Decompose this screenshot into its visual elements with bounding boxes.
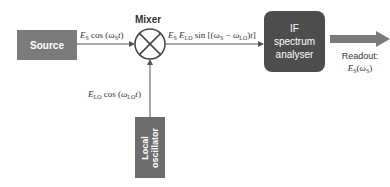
source-block: Source	[17, 30, 77, 60]
lo-label-line-1: Local	[140, 127, 150, 167]
local-oscillator-block: Local oscillator	[135, 117, 165, 178]
readout: Readout: ES(ωS)	[330, 50, 390, 77]
readout-label: Readout:	[330, 50, 390, 62]
mixer-output-signal-label: ES ELO sin [(ωS − ωLO)t]	[168, 30, 256, 41]
if-label-line-1: IF	[274, 22, 315, 35]
output-arrow	[330, 31, 390, 47]
source-signal-label: ES cos (ωSt)	[80, 30, 124, 41]
readout-value: ES(ωS)	[330, 62, 390, 77]
if-label-line-3: analyser	[274, 48, 315, 61]
lo-signal-label: ELO cos (ωLOt)	[88, 89, 141, 100]
source-label: Source	[30, 40, 64, 51]
mixer-label: Mixer	[135, 14, 161, 25]
if-spectrum-analyser-block: IF spectrum analyser	[264, 11, 325, 72]
connector-lines	[0, 0, 390, 187]
if-label-line-2: spectrum	[274, 35, 315, 48]
lo-label-line-2: oscillator	[150, 127, 160, 167]
